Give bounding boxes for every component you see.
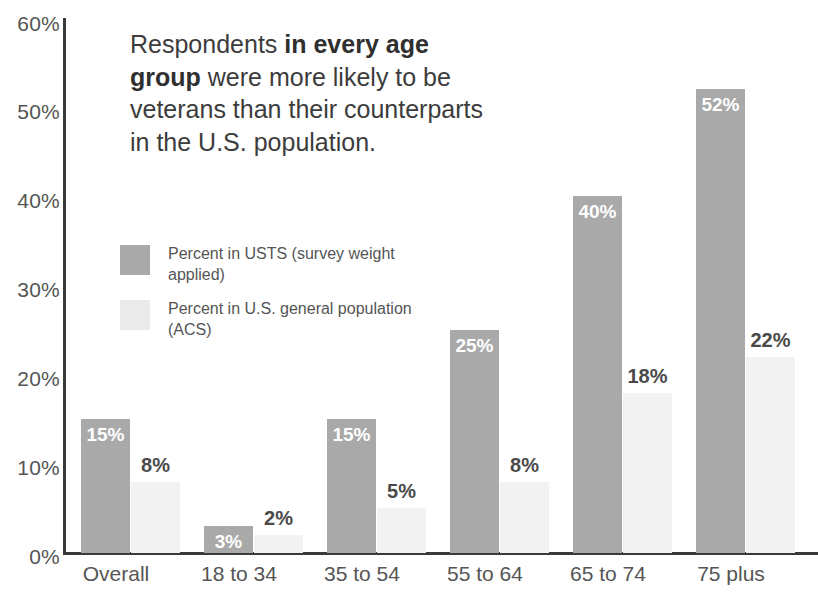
bar-value-label: 18%	[623, 366, 672, 386]
bar-value-label: 3%	[204, 532, 253, 551]
legend-item-label: Percent in USTS (survey weight applied)	[168, 243, 448, 285]
bar-acs[interactable]: 5%	[377, 508, 426, 553]
bar-value-label: 40%	[573, 202, 622, 221]
x-tick-label-75-plus: 75 plus	[646, 563, 816, 584]
y-tick-label: 30%	[4, 279, 60, 300]
legend-item-label: Percent in U.S. general population (ACS)	[168, 298, 448, 340]
legend-item-usts[interactable]: Percent in USTS (survey weight applied)	[120, 243, 450, 289]
legend: Percent in USTS (survey weight applied) …	[120, 243, 450, 353]
legend-swatch-icon	[120, 300, 150, 330]
bar-acs[interactable]: 8%	[500, 482, 549, 553]
bar-usts[interactable]: 25%	[450, 330, 499, 553]
chart-title: Respondents in every age group were more…	[130, 28, 490, 158]
bar-acs[interactable]: 22%	[746, 357, 795, 553]
bar-value-label: 5%	[377, 481, 426, 501]
y-tick-label: 20%	[4, 368, 60, 389]
bar-value-label: 52%	[696, 95, 745, 114]
bar-value-label: 15%	[81, 425, 130, 444]
y-tick-label: 60%	[4, 13, 60, 34]
bar-value-label: 8%	[131, 455, 180, 475]
y-tick-label: 40%	[4, 190, 60, 211]
bar-group: 52% 22%	[696, 18, 796, 553]
y-tick-label: 50%	[4, 101, 60, 122]
bar-value-label: 22%	[746, 330, 795, 350]
bar-usts[interactable]: 3%	[204, 526, 253, 553]
y-tick-label: 10%	[4, 457, 60, 478]
bar-group: 40% 18%	[573, 18, 673, 553]
chart-title-prefix: Respondents	[130, 30, 284, 58]
bar-value-label: 8%	[500, 455, 549, 475]
bar-acs[interactable]: 18%	[623, 393, 672, 554]
bar-usts[interactable]: 52%	[696, 89, 745, 553]
legend-swatch-icon	[120, 245, 150, 275]
bar-value-label: 25%	[450, 336, 499, 355]
bar-usts[interactable]: 15%	[81, 419, 130, 553]
bar-chart: 60% 50% 40% 30% 20% 10% 0% 15% 8% 3% 2%	[0, 0, 818, 596]
y-axis-tick-labels: 60% 50% 40% 30% 20% 10% 0%	[0, 0, 60, 596]
bar-acs[interactable]: 8%	[131, 482, 180, 553]
legend-item-acs[interactable]: Percent in U.S. general population (ACS)	[120, 298, 450, 344]
bar-usts[interactable]: 40%	[573, 196, 622, 553]
bar-usts[interactable]: 15%	[327, 419, 376, 553]
bar-value-label: 15%	[327, 425, 376, 444]
bar-acs[interactable]: 2%	[254, 535, 303, 553]
bar-value-label: 2%	[254, 508, 303, 528]
